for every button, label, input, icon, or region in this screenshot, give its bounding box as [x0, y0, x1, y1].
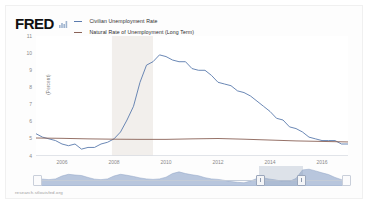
fred-logo[interactable]: FRED [15, 16, 54, 31]
y-axis-tick-label: 8 [16, 85, 32, 90]
y-axis-tick-label: 10 [16, 51, 32, 56]
y-axis-tick-label: 11 [16, 34, 32, 39]
series-line [36, 138, 348, 142]
series-line [36, 55, 348, 149]
line-dash-icon [74, 32, 82, 33]
chart-header: FRED Civilian Unemployment Rate Natural … [6, 6, 362, 34]
mini-bar-chart-icon [59, 20, 68, 28]
legend-item-natural-rate-of-unemployment[interactable]: Natural Rate of Unemployment (Long Term) [74, 27, 194, 36]
fred-chart-widget: FRED Civilian Unemployment Rate Natural … [6, 6, 362, 198]
range-navigator[interactable] [36, 166, 348, 186]
y-axis-tick-label: 4 [16, 154, 32, 159]
legend-label: Civilian Unemployment Rate [89, 17, 157, 26]
chart-plot-area[interactable]: (Percent) 1110987654 2006200820102012201… [36, 36, 348, 156]
x-axis-tick-label: 2008 [102, 160, 126, 165]
x-axis-tick-label: 2006 [50, 160, 74, 165]
x-axis-tick-label: 2012 [206, 160, 230, 165]
x-axis-tick-label: 2010 [154, 160, 178, 165]
y-axis-tick-label: 9 [16, 68, 32, 73]
navigator-end-handle[interactable] [342, 175, 351, 186]
line-dash-icon [74, 21, 82, 22]
y-axis-tick-label: 7 [16, 102, 32, 107]
navigator-start-handle[interactable] [33, 175, 42, 186]
x-axis-tick-label: 2014 [258, 160, 282, 165]
x-axis-tick-label: 2016 [310, 160, 334, 165]
range-handle-left[interactable] [256, 175, 265, 186]
source-attribution[interactable]: research.stlouisfed.org [15, 190, 63, 195]
navigator-selection[interactable] [259, 166, 303, 186]
y-axis-tick-label: 6 [16, 119, 32, 124]
series-lines [36, 55, 348, 149]
y-axis-tick-label: 5 [16, 136, 32, 141]
chart-legend: Civilian Unemployment Rate Natural Rate … [74, 16, 194, 38]
legend-item-civilian-unemployment-rate[interactable]: Civilian Unemployment Rate [74, 16, 194, 25]
recession-shading [112, 36, 153, 156]
recession-band [112, 36, 153, 156]
chart-svg [36, 36, 348, 156]
range-handle-right[interactable] [297, 175, 306, 186]
